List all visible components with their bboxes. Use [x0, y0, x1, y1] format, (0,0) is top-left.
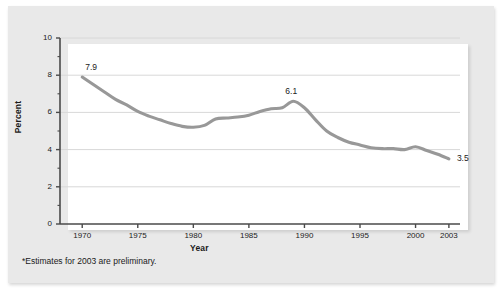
- y-axis-title: Percent: [13, 87, 23, 147]
- y-tick-label: 2: [30, 182, 52, 191]
- chart-screenshot: Percent Year 0246810 1970197519801985199…: [0, 0, 502, 290]
- axis-lines: [60, 38, 460, 224]
- y-tick-label: 6: [30, 107, 52, 116]
- y-tick-label: 10: [30, 33, 52, 42]
- x-tick-label: 1980: [173, 231, 213, 240]
- line-chart: [0, 0, 502, 290]
- x-tick-label: 1990: [284, 231, 324, 240]
- x-tick-label: 1995: [340, 231, 380, 240]
- x-tick-label: 1970: [62, 231, 102, 240]
- x-axis-title: Year: [190, 243, 209, 253]
- chart-footnote: *Estimates for 2003 are preliminary.: [22, 256, 156, 266]
- annotation-label: 7.9: [85, 62, 97, 72]
- x-tick-label: 1985: [229, 231, 269, 240]
- x-tick-label: 1975: [118, 231, 158, 240]
- y-tick-label: 4: [30, 145, 52, 154]
- series-line-percent: [82, 77, 449, 159]
- x-tick-label: 2003: [429, 231, 469, 240]
- y-tick-label: 0: [30, 219, 52, 228]
- annotation-label: 6.1: [285, 86, 297, 96]
- y-tick-label: 8: [30, 70, 52, 79]
- axis-ticks: [56, 38, 449, 228]
- data-line: [82, 77, 449, 159]
- annotation-label: 3.5: [457, 153, 469, 163]
